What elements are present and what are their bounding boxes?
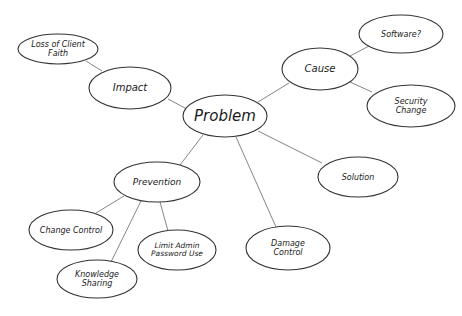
edge-problem-to-prevention <box>180 135 203 165</box>
node-label: Faith <box>48 49 68 58</box>
node-cause[interactable]: Cause <box>282 48 358 90</box>
node-label: Control <box>273 248 303 257</box>
node-problem[interactable]: Problem <box>183 95 267 137</box>
node-software[interactable]: Software? <box>359 15 443 53</box>
node-label: Change Control <box>40 226 103 235</box>
edge-prevention-to-limit-admin-password-use <box>160 202 168 231</box>
node-loss-of-client-faith[interactable]: Loss of ClientFaith <box>18 34 98 64</box>
node-impact[interactable]: Impact <box>89 67 171 109</box>
edge-cause-to-security-change <box>350 82 372 92</box>
node-label: Change <box>396 106 427 115</box>
node-knowledge-sharing[interactable]: KnowledgeSharing <box>57 260 137 298</box>
node-label: Cause <box>305 63 336 74</box>
node-label: Solution <box>342 173 375 182</box>
edge-problem-to-damage-control <box>236 137 276 227</box>
node-damage-control[interactable]: DamageControl <box>246 226 330 270</box>
node-label: Password Use <box>151 249 203 258</box>
node-label: Impact <box>113 82 149 93</box>
edge-prevention-to-knowledge-sharing <box>111 201 141 262</box>
edge-impact-to-loss-of-client-faith <box>86 61 102 71</box>
node-label: Knowledge <box>75 270 119 279</box>
node-solution[interactable]: Solution <box>318 157 398 197</box>
edge-prevention-to-change-control <box>96 196 124 213</box>
node-change-control[interactable]: Change Control <box>29 210 113 250</box>
mind-map-canvas: ProblemImpactLoss of ClientFaithCauseSof… <box>0 0 462 316</box>
edge-problem-to-impact <box>168 99 185 108</box>
node-label: Software? <box>381 30 422 39</box>
node-label: Damage <box>271 239 305 248</box>
node-label: Security <box>395 97 428 106</box>
node-label: Sharing <box>82 279 113 288</box>
node-label: Problem <box>194 107 256 125</box>
edge-cause-to-software <box>350 46 369 56</box>
node-label: Loss of Client <box>31 40 86 49</box>
edge-problem-to-cause <box>258 83 289 102</box>
edge-problem-to-solution <box>258 131 322 163</box>
node-label: Prevention <box>133 177 182 187</box>
nodes-layer: ProblemImpactLoss of ClientFaithCauseSof… <box>18 15 455 298</box>
node-limit-admin-password-use[interactable]: Limit AdminPassword Use <box>138 230 216 270</box>
node-prevention[interactable]: Prevention <box>114 162 200 202</box>
node-security-change[interactable]: SecurityChange <box>367 85 455 127</box>
